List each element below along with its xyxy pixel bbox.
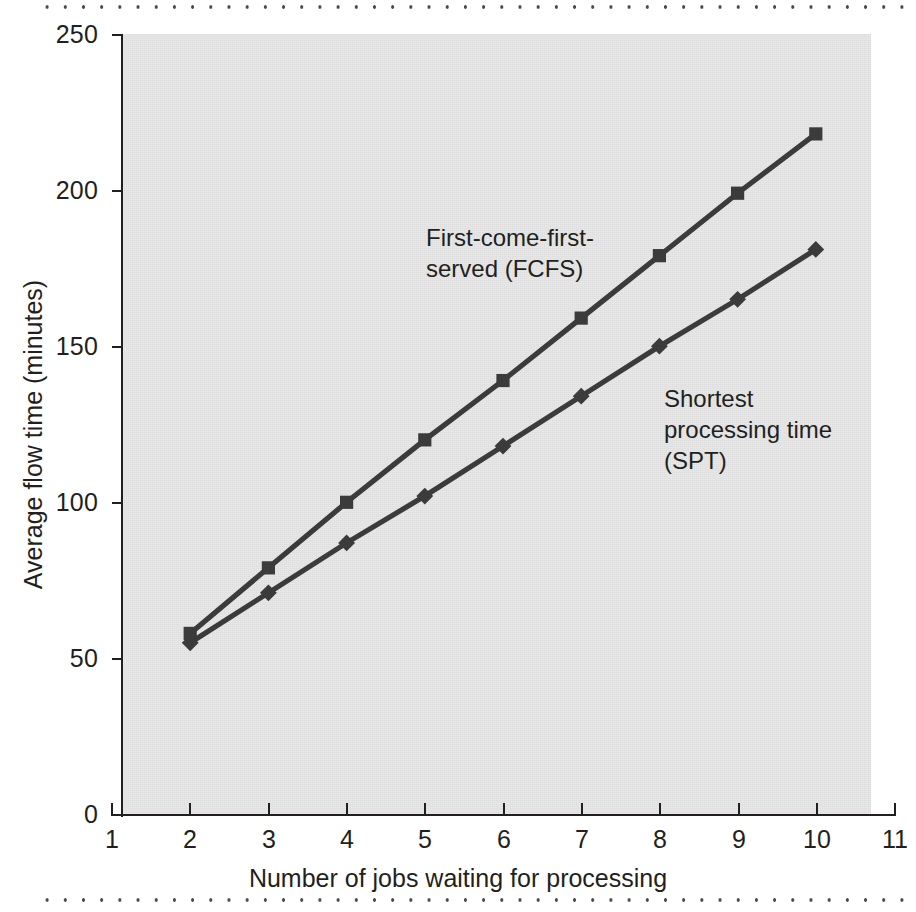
x-tick-2	[189, 803, 191, 815]
x-tick-9	[738, 803, 740, 815]
x-tick-label-2: 2	[162, 826, 218, 852]
y-tick-0	[112, 814, 123, 816]
y-tick-250	[112, 34, 123, 36]
x-tick-label-4: 4	[319, 826, 375, 852]
page-margin-notes	[884, 70, 914, 290]
annotation-fcfs: First-come-first- served (FCFS)	[426, 222, 594, 284]
x-tick-label-3: 3	[241, 826, 297, 852]
x-tick-8	[659, 803, 661, 815]
y-tick-200	[112, 190, 123, 192]
x-tick-3	[268, 803, 270, 815]
x-tick-label-6: 6	[476, 826, 532, 852]
x-tick-6	[503, 803, 505, 815]
x-tick-11	[894, 803, 896, 815]
y-tick-150	[112, 346, 123, 348]
x-tick-5	[424, 803, 426, 815]
x-tick-label-10: 10	[789, 826, 845, 852]
x-tick-label-7: 7	[554, 826, 610, 852]
annotation-spt: Shortest processing time (SPT)	[664, 383, 832, 476]
y-tick-100	[112, 502, 123, 504]
x-tick-label-1: 1	[84, 826, 140, 852]
y-tick-label-250: 250	[24, 22, 98, 47]
figure-container: 250 200 150 100 50 0 1 2 3 4 5 6 7 8 9 1…	[0, 0, 916, 912]
x-tick-label-9: 9	[711, 826, 767, 852]
x-tick-4	[346, 803, 348, 815]
bottom-dotted-rule	[38, 898, 904, 902]
top-dotted-rule	[38, 5, 904, 9]
x-tick-7	[581, 803, 583, 815]
x-tick-label-8: 8	[632, 826, 688, 852]
y-tick-label-0: 0	[24, 802, 98, 827]
y-tick-50	[112, 658, 123, 660]
x-tick-label-5: 5	[397, 826, 453, 852]
y-axis-line	[121, 34, 123, 817]
y-axis-title: Average flow time (minutes)	[19, 225, 48, 645]
y-tick-label-200: 200	[24, 178, 98, 203]
y-tick-label-50: 50	[24, 646, 98, 671]
x-tick-label-11: 11	[867, 826, 916, 852]
x-tick-10	[816, 803, 818, 815]
x-tick-1	[111, 803, 113, 815]
x-axis-title: Number of jobs waiting for processing	[0, 864, 916, 893]
